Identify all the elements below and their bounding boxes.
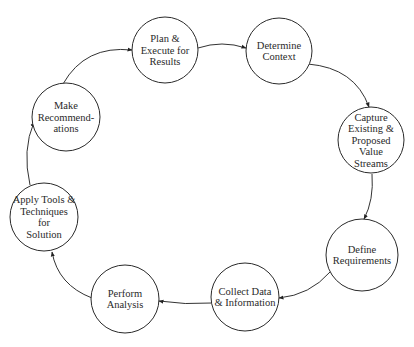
node-label: PerformAnalysis — [107, 288, 144, 311]
node-perform: PerformAnalysis — [91, 265, 159, 333]
arrow-perform-to-apply — [52, 252, 92, 298]
arrow-apply-to-make — [27, 122, 34, 185]
arrow-define-to-collect — [279, 272, 330, 298]
edges — [27, 44, 373, 304]
node-make: MakeRecommend-ations — [32, 83, 100, 151]
node-label: CaptureExisting &ProposedValueStreams — [348, 112, 394, 169]
arrow-determine-to-capture — [308, 64, 369, 107]
node-apply: Apply Tools &TechniquesforSolution — [10, 183, 78, 251]
node-label: Collect Data& Information — [215, 286, 277, 309]
arrow-collect-to-perform — [159, 301, 212, 304]
node-capture: CaptureExisting &ProposedValueStreams — [338, 107, 404, 173]
node-determine: DetermineContext — [246, 18, 312, 84]
process-cycle-diagram: Plan &Execute forResultsDetermineContext… — [0, 0, 414, 347]
arrow-plan-to-determine — [198, 44, 246, 48]
node-collect: Collect Data& Information — [211, 263, 279, 331]
node-define: DefineRequirements — [326, 219, 398, 291]
arrow-capture-to-define — [364, 174, 372, 219]
arrow-make-to-plan — [63, 49, 132, 84]
node-plan: Plan &Execute forResults — [132, 17, 198, 83]
node-label: DetermineContext — [257, 40, 302, 63]
nodes: Plan &Execute forResultsDetermineContext… — [10, 17, 404, 333]
